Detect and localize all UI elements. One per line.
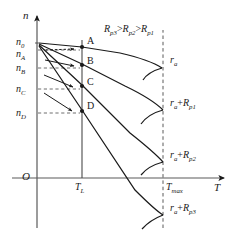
curve-ra-Rp2 <box>39 45 163 175</box>
y-tick-n0-sub: 0 <box>21 42 24 49</box>
curve-label-ra-Rp1: ra+Rp1 <box>170 98 196 108</box>
curve-ra-Rp3-main <box>39 46 163 215</box>
x-tick-Tmax-base: T <box>166 181 172 192</box>
speed-torque-characteristic-figure: n T O n0 nA nB nC nD TL Tmax A B C D Rp3… <box>0 0 234 233</box>
y-axis-label: n <box>23 10 29 21</box>
annotation-Rp1-sub: p1 <box>147 29 154 36</box>
y-tick-nB: nB <box>16 63 25 73</box>
y-tick-nC-sub: C <box>21 89 26 96</box>
curve-label-ra-sub: a <box>174 60 177 67</box>
x-tick-Tmax-sub: max <box>172 187 183 194</box>
curve-ra-Rp3-hook <box>142 215 163 229</box>
curve-ra-main <box>39 43 162 68</box>
curve-label-ra-Rp3: ra+Rp3 <box>170 203 196 213</box>
curve-ra-Rp1-hook <box>141 110 163 124</box>
y-tick-nA: nA <box>16 49 25 59</box>
curve-label-ra-Rp2-sub2: p2 <box>189 155 196 162</box>
marker-point-D <box>80 109 84 113</box>
characteristic-curves-canvas <box>0 0 234 233</box>
y-tick-nA-sub: A <box>21 54 25 61</box>
curve-ra-Rp2-hook <box>141 162 163 175</box>
transition-arrow-to-C <box>44 75 73 87</box>
resistance-order-annotation: Rp3>Rp2>Rp1 <box>104 24 154 34</box>
curve-label-ra-Rp3-sub2: p3 <box>189 208 196 215</box>
curve-ra-Rp1-main <box>39 44 163 110</box>
curve-label-ra-Rp3-sub: a <box>174 208 177 215</box>
marker-point-C <box>80 84 84 88</box>
x-axis-label: T <box>214 182 220 193</box>
x-tick-Tmax: Tmax <box>166 182 183 192</box>
x-tick-TL: TL <box>75 182 84 192</box>
marker-point-A <box>80 45 84 49</box>
curve-label-ra-Rp1-sub2: p1 <box>189 103 196 110</box>
point-label-C: C <box>87 77 94 87</box>
annotation-Rp2-sub: p2 <box>129 29 136 36</box>
point-label-A: A <box>87 36 94 46</box>
y-tick-nD-sub: D <box>21 113 26 120</box>
y-tick-nD: nD <box>16 108 26 118</box>
x-tick-TL-base: T <box>75 181 81 192</box>
point-label-B: B <box>87 56 94 66</box>
x-tick-TL-sub: L <box>81 187 85 194</box>
origin-label: O <box>22 171 30 182</box>
curve-label-ra: ra <box>170 55 177 65</box>
annotation-Rp3-sub: p3 <box>110 29 117 36</box>
transition-arrow-to-D <box>44 93 72 111</box>
axis-lines <box>12 16 224 228</box>
y-tick-nC: nC <box>16 84 26 94</box>
curve-ra-hook <box>143 68 162 80</box>
curve-label-ra-Rp2: ra+Rp2 <box>170 150 196 160</box>
y-tick-n0: n0 <box>16 37 24 47</box>
annotation-Rp2-base: R <box>123 23 129 34</box>
curve-ra-Rp1 <box>39 44 163 124</box>
transition-arrow-to-B <box>45 60 74 66</box>
curve-label-ra-Rp2-sub: a <box>174 155 177 162</box>
marker-point-B <box>80 63 84 67</box>
point-label-D: D <box>87 101 94 111</box>
y-tick-nB-sub: B <box>21 68 25 75</box>
curve-label-ra-Rp1-sub: a <box>174 103 177 110</box>
